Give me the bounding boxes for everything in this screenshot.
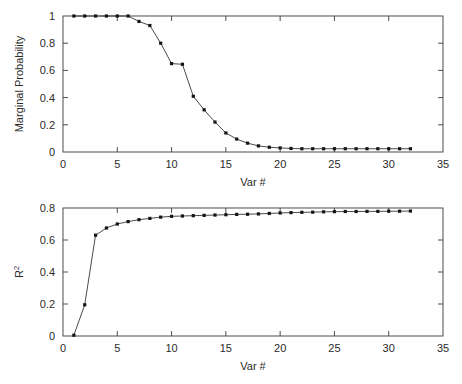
data-point (170, 62, 173, 65)
data-point (246, 213, 249, 216)
data-point (322, 210, 325, 213)
x-tick-label: 10 (165, 158, 177, 170)
data-point (83, 303, 86, 306)
data-point (289, 211, 292, 214)
data-point (148, 24, 151, 27)
data-point (181, 214, 184, 217)
r-squared-plot: 0510152025303500.20.40.60.8Var #R2 (0, 192, 462, 384)
y-axis-title: R2 (12, 266, 25, 278)
x-tick-label: 5 (114, 342, 120, 354)
data-series-line (74, 16, 411, 149)
figure-root: 0510152025303500.20.40.60.81Var #Margina… (0, 0, 462, 384)
y-tick-label: 0.6 (40, 64, 55, 76)
x-tick-label: 25 (328, 342, 340, 354)
data-point (311, 147, 314, 150)
data-point (116, 222, 119, 225)
y-tick-label: 0.8 (40, 37, 55, 49)
x-tick-label: 0 (60, 342, 66, 354)
data-point (127, 220, 130, 223)
data-point (398, 210, 401, 213)
marginal-probability-plot: 0510152025303500.20.40.60.81Var #Margina… (0, 0, 462, 192)
y-tick-label: 0 (49, 330, 55, 342)
y-tick-label: 0.4 (40, 92, 55, 104)
data-point (279, 146, 282, 149)
data-point (213, 120, 216, 123)
data-point (355, 210, 358, 213)
x-tick-label: 30 (383, 158, 395, 170)
data-point (94, 14, 97, 17)
x-tick-label: 15 (220, 158, 232, 170)
data-point (344, 147, 347, 150)
data-point (116, 14, 119, 17)
data-point (137, 20, 140, 23)
data-point (387, 147, 390, 150)
x-tick-label: 5 (114, 158, 120, 170)
data-point (105, 226, 108, 229)
x-tick-label: 35 (437, 342, 449, 354)
data-point (213, 213, 216, 216)
y-tick-label: 0.2 (40, 119, 55, 131)
data-point (105, 14, 108, 17)
data-point (170, 215, 173, 218)
data-point (311, 211, 314, 214)
data-point (257, 144, 260, 147)
data-point (279, 211, 282, 214)
data-point (159, 42, 162, 45)
y-tick-label: 0.4 (40, 266, 55, 278)
data-point (203, 108, 206, 111)
data-point (300, 147, 303, 150)
data-point (235, 137, 238, 140)
data-point (289, 147, 292, 150)
data-point (398, 147, 401, 150)
data-point (376, 210, 379, 213)
x-tick-label: 30 (383, 342, 395, 354)
data-point (127, 14, 130, 17)
data-point (344, 210, 347, 213)
data-point (409, 147, 412, 150)
x-tick-label: 10 (165, 342, 177, 354)
y-tick-label: 0.8 (40, 202, 55, 214)
x-tick-label: 20 (274, 342, 286, 354)
y-tick-label: 0.6 (40, 234, 55, 246)
chart-panel-marginal-probability: 0510152025303500.20.40.60.81Var #Margina… (0, 0, 462, 192)
data-point (224, 213, 227, 216)
data-point (148, 217, 151, 220)
data-point (94, 234, 97, 237)
data-point (72, 334, 75, 337)
data-point (387, 210, 390, 213)
data-point (322, 147, 325, 150)
data-point (83, 14, 86, 17)
x-tick-label: 0 (60, 158, 66, 170)
data-point (192, 95, 195, 98)
chart-panel-r-squared: 0510152025303500.20.40.60.8Var #R2 (0, 192, 462, 384)
data-point (257, 212, 260, 215)
x-tick-label: 15 (220, 342, 232, 354)
x-tick-label: 25 (328, 158, 340, 170)
x-tick-label: 35 (437, 158, 449, 170)
y-tick-label: 0 (49, 146, 55, 158)
x-axis-title: Var # (240, 176, 266, 188)
data-point (159, 216, 162, 219)
y-axis-title: Marginal Probability (13, 35, 25, 132)
data-point (268, 212, 271, 215)
y-tick-label: 0.2 (40, 298, 55, 310)
data-point (333, 147, 336, 150)
data-series-line (74, 211, 411, 335)
data-point (181, 63, 184, 66)
data-point (268, 146, 271, 149)
y-tick-label: 1 (49, 10, 55, 22)
data-point (203, 214, 206, 217)
data-point (355, 147, 358, 150)
data-point (365, 147, 368, 150)
data-point (72, 14, 75, 17)
data-point (137, 218, 140, 221)
data-point (365, 210, 368, 213)
data-point (246, 142, 249, 145)
data-point (376, 147, 379, 150)
data-point (192, 214, 195, 217)
data-point (235, 213, 238, 216)
data-point (409, 209, 412, 212)
data-point (224, 131, 227, 134)
x-tick-label: 20 (274, 158, 286, 170)
x-axis-title: Var # (240, 360, 266, 372)
